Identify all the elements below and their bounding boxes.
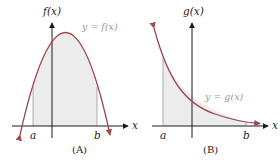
caption-b: (B) (203, 144, 218, 155)
caption-a: (A) (72, 144, 87, 155)
y-axis-label: g(x) (183, 5, 204, 17)
x-axis-label: x (272, 119, 278, 131)
bound-label-b: b (94, 129, 101, 141)
bound-label-b: b (243, 129, 250, 141)
panel-a: f(x) x y = f(x) a b (A) (12, 5, 138, 155)
panel-b: g(x) x y = g(x) a b (B) (152, 5, 278, 155)
bound-label-a: a (30, 129, 36, 141)
curve-label: y = f(x) (81, 21, 118, 32)
shaded-area-a (33, 33, 97, 127)
figure: f(x) x y = f(x) a b (A) g(x) x y = g(x) … (0, 0, 280, 164)
curve-label: y = g(x) (204, 91, 244, 102)
x-axis-label: x (132, 119, 138, 131)
y-axis-label: f(x) (42, 5, 61, 17)
bound-label-a: a (160, 129, 166, 141)
